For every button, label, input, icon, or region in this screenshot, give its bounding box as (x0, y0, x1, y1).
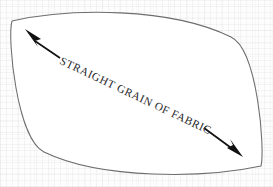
pattern-scan-canvas: STRAIGHT GRAIN OF FABRIC (0, 0, 273, 187)
pattern-drawing: STRAIGHT GRAIN OF FABRIC (0, 0, 273, 187)
